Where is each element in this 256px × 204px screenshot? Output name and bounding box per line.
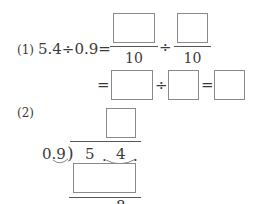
subtraction-bar [69,197,141,198]
product-box[interactable] [73,163,136,193]
remainder-digit: 8 [116,199,126,204]
